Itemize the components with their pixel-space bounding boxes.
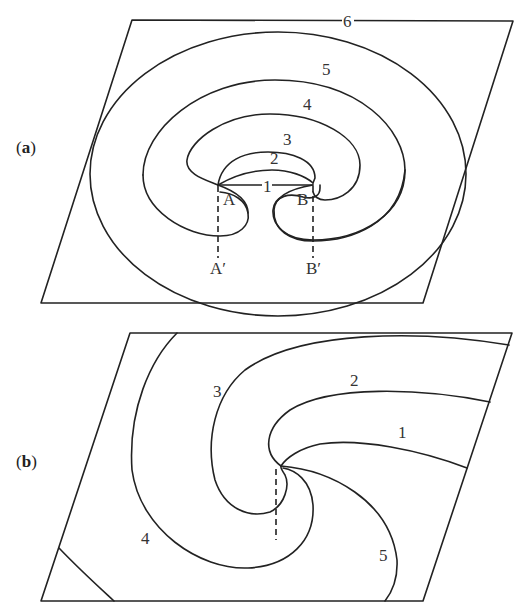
label-3: 3 bbox=[283, 130, 292, 149]
label-5: 5 bbox=[322, 60, 331, 79]
panel-b: (b) 2 1 3 4 5 bbox=[16, 333, 512, 601]
figure: (a) 6 5 4 3 2 1 A B A′ bbox=[0, 0, 527, 613]
contour-4-corner bbox=[59, 548, 114, 601]
contour-3-inner bbox=[211, 336, 509, 514]
label-4: 4 bbox=[141, 529, 150, 548]
point-a-prime: A′ bbox=[210, 259, 226, 278]
label-2: 2 bbox=[350, 371, 359, 390]
point-b-prime: B′ bbox=[306, 259, 321, 278]
contour-1 bbox=[281, 442, 467, 468]
panel-b-label: (b) bbox=[16, 452, 37, 471]
contour-6 bbox=[90, 32, 466, 316]
point-b: B bbox=[297, 190, 308, 209]
label-3: 3 bbox=[213, 382, 222, 401]
plane-b bbox=[41, 333, 512, 601]
panel-a: (a) 6 5 4 3 2 1 A B A′ bbox=[16, 12, 513, 316]
contour-5 bbox=[281, 466, 397, 601]
contour-3 bbox=[132, 333, 314, 568]
label-5: 5 bbox=[379, 546, 388, 565]
label-4: 4 bbox=[303, 95, 312, 114]
label-2: 2 bbox=[270, 149, 279, 168]
point-a: A bbox=[223, 190, 236, 209]
lobe-right bbox=[274, 170, 405, 241]
label-1: 1 bbox=[263, 177, 272, 196]
contour-2 bbox=[269, 391, 490, 466]
label-1: 1 bbox=[398, 423, 407, 442]
label-6: 6 bbox=[343, 12, 352, 31]
panel-a-label: (a) bbox=[16, 138, 36, 157]
